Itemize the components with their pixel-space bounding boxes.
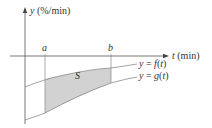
y-axis-arrow-icon [23,7,27,13]
curve-f-label: y = f(t) [138,58,166,70]
y-axis-label: y (%/min) [29,5,70,17]
curve-g-label: y = g(t) [138,70,169,82]
region-label-s: S [75,70,80,81]
tick-label-b: b [108,42,113,53]
y-axis-unit: (%/min) [34,5,70,17]
t-axis-label: t (min) [172,50,200,62]
tick-label-a: a [42,42,47,53]
area-between-curves-diagram: y (%/min) a b t (min) S y = f(t) y = g(t… [0,0,212,128]
